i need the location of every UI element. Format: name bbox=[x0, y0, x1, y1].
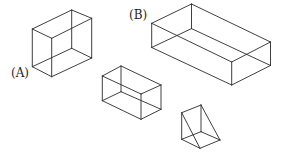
box-c-edge bbox=[121, 66, 161, 85]
box-c-shape bbox=[102, 66, 161, 119]
box-c-edge bbox=[141, 85, 161, 94]
box-c-edge bbox=[141, 109, 161, 119]
box-a-edge bbox=[32, 10, 71, 29]
diagram-svg bbox=[0, 0, 282, 168]
wedge-edge bbox=[200, 140, 220, 148]
box-b-edge bbox=[232, 66, 271, 86]
wedge-edge bbox=[182, 113, 200, 149]
box-a-edge bbox=[72, 48, 92, 58]
box-b-edge bbox=[192, 29, 271, 66]
label-a: (A) bbox=[11, 67, 29, 79]
box-a-edge bbox=[32, 29, 51, 38]
box-b-edge bbox=[152, 29, 192, 48]
box-b-edge bbox=[232, 42, 271, 62]
box-c-edge bbox=[102, 66, 121, 76]
box-a-edge bbox=[52, 58, 92, 77]
box-a-edge bbox=[32, 67, 51, 77]
wedge-edge bbox=[201, 105, 220, 140]
box-b-edge bbox=[152, 4, 192, 23]
box-b-shape bbox=[152, 4, 271, 85]
diagram-canvas: (A) (B) bbox=[0, 0, 282, 168]
box-c-edge bbox=[102, 76, 141, 94]
wedge-edge bbox=[182, 105, 201, 113]
box-c-edge bbox=[102, 101, 141, 120]
shapes-layer bbox=[32, 4, 270, 148]
box-a-edge bbox=[72, 10, 92, 18]
wedge-edge bbox=[201, 132, 220, 140]
wedge-edge bbox=[182, 132, 201, 140]
wedge-shape bbox=[182, 105, 220, 148]
box-b-edge bbox=[152, 48, 232, 86]
box-a-shape bbox=[32, 10, 91, 77]
label-b: (B) bbox=[129, 9, 147, 21]
box-c-edge bbox=[102, 92, 121, 101]
box-b-edge bbox=[192, 4, 271, 42]
